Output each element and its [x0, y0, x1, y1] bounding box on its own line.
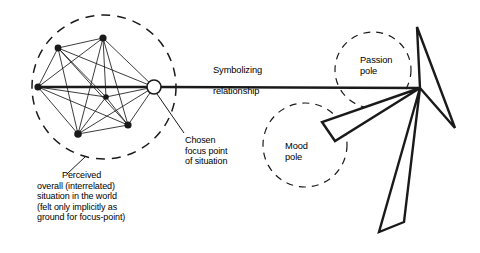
mood-pole-label-line2: pole — [285, 152, 302, 162]
passion-pole-label-line2: pole — [360, 66, 377, 76]
symbolizing-relationship-line — [161, 87, 420, 88]
perceived-situation-label-heading: Perceived — [37, 170, 125, 181]
node-top — [99, 34, 106, 41]
network-edge — [38, 87, 106, 97]
network-edge — [78, 97, 106, 134]
node-lower-right — [124, 121, 131, 128]
symbolizing-label-line2: relationship — [213, 86, 259, 97]
node-center — [103, 94, 109, 100]
symbolizing-label-line1: Symbolizing — [213, 65, 262, 76]
network-edge — [103, 38, 128, 125]
network-edge-to-focus — [103, 38, 154, 87]
node-bottom — [74, 130, 82, 138]
chosen-focus-leader-line — [157, 94, 184, 133]
chosen-focus-point — [147, 80, 161, 94]
perceived-situation-label: Perceivedoverall (interrelated) situatio… — [37, 170, 125, 223]
network-edge-to-focus — [58, 48, 154, 87]
diagram-canvas: Symbolizing relationship Passionpole Moo… — [0, 0, 480, 253]
network-edge — [38, 48, 58, 87]
network-edge — [58, 48, 78, 134]
passion-pole-blade — [417, 27, 455, 128]
node-left — [34, 83, 41, 90]
passion-pole-label-line1: Passion — [360, 55, 392, 65]
passion-pole-label: Passionpole — [360, 55, 392, 77]
network-edge — [38, 87, 128, 125]
node-upper-left — [55, 45, 62, 52]
mood-pole-blade-left — [322, 88, 420, 141]
perceived-situation-label-body: overall (interrelated) situation in the … — [37, 181, 125, 223]
chosen-focus-point-label: Chosen focus point of situation — [185, 135, 227, 167]
mood-pole-label: Moodpole — [285, 141, 308, 163]
mood-pole-label-line1: Mood — [285, 141, 308, 151]
